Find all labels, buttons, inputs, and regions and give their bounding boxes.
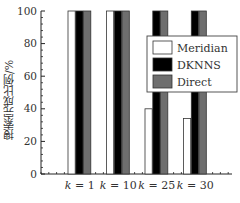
x-tick-labels: k = 1k = 10k = 25k = 30 bbox=[65, 179, 214, 192]
bars bbox=[68, 11, 206, 174]
y-tick-label: 0 bbox=[30, 168, 37, 180]
legend-swatch-direct bbox=[153, 75, 172, 88]
x-tick-label: k = 10 bbox=[100, 179, 137, 192]
legend: MeridianDKNNSDirect bbox=[147, 36, 237, 92]
bar-direct bbox=[199, 11, 206, 174]
bar-group bbox=[68, 11, 91, 174]
x-tick-label: k = 25 bbox=[138, 179, 175, 192]
bar-meridian bbox=[184, 119, 191, 174]
bar-dknns bbox=[76, 11, 83, 174]
x-tick-label: k = 1 bbox=[65, 179, 95, 192]
legend-swatch-meridian bbox=[153, 41, 172, 54]
bar-dknns bbox=[191, 11, 198, 174]
legend-label-meridian: Meridian bbox=[177, 42, 228, 55]
y-tick-label: 20 bbox=[24, 135, 37, 147]
legend-label-dknns: DKNNS bbox=[177, 59, 221, 72]
bar-direct bbox=[122, 11, 129, 174]
y-tick-label: 100 bbox=[17, 5, 37, 17]
x-tick-label: k = 30 bbox=[177, 179, 214, 192]
bar-dknns bbox=[114, 11, 121, 174]
y-tick-label: 80 bbox=[24, 37, 37, 49]
bar-meridian bbox=[68, 11, 75, 174]
bar-group bbox=[184, 11, 207, 174]
y-tick-label: 40 bbox=[24, 102, 37, 114]
legend-swatch-dknns bbox=[153, 58, 172, 71]
bar-dknns bbox=[153, 11, 160, 174]
bar-meridian bbox=[107, 11, 114, 174]
bar-direct bbox=[161, 11, 168, 174]
y-tick-label: 60 bbox=[24, 70, 37, 82]
legend-label-direct: Direct bbox=[177, 76, 212, 89]
bar-direct bbox=[84, 11, 91, 174]
bar-meridian bbox=[145, 109, 152, 174]
bar-group bbox=[145, 11, 168, 174]
y-axis-label: 搜索完成比例/% bbox=[2, 45, 16, 155]
bar-chart: 020406080100 k = 1k = 10k = 25k = 30 Mer… bbox=[0, 0, 240, 203]
bar-group bbox=[107, 11, 130, 174]
